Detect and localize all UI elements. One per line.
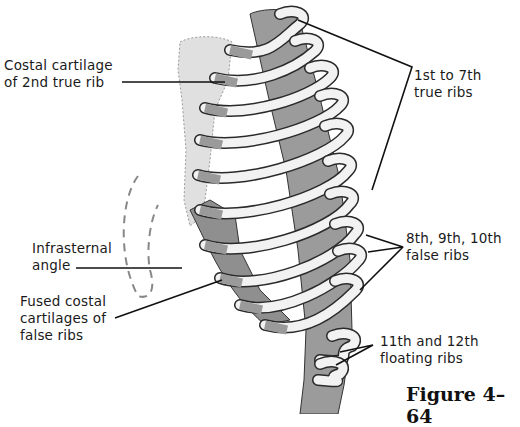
label-floating-ribs: 11th and 12thfloating ribs xyxy=(380,333,479,367)
label-line: true ribs xyxy=(414,84,482,101)
label-line: of 2nd true rib xyxy=(4,74,113,91)
label-line: cartilages of xyxy=(20,310,106,327)
costal-cartilage xyxy=(240,305,262,310)
costal-cartilage xyxy=(230,50,252,55)
costal-cartilage xyxy=(200,210,222,215)
label-line: floating ribs xyxy=(380,350,479,367)
label-line: Fused costal xyxy=(20,293,106,310)
costal-cartilage xyxy=(205,108,227,113)
label-line: 11th and 12th xyxy=(380,333,479,350)
costal-cartilage xyxy=(198,175,220,180)
label-line: 8th, 9th, 10th xyxy=(406,230,502,247)
label-line: false ribs xyxy=(20,327,106,344)
label-costal-cartilage-2nd: Costal cartilageof 2nd true rib xyxy=(4,57,113,91)
costal-cartilage xyxy=(205,245,227,250)
costal-cartilage xyxy=(200,140,222,145)
infrasternal-outline xyxy=(124,176,158,297)
sternum xyxy=(178,37,232,226)
label-line: Infrasternal xyxy=(32,240,112,257)
label-line: false ribs xyxy=(406,247,502,264)
leader-fused-costal xyxy=(115,280,222,318)
costal-cartilage xyxy=(220,278,242,283)
label-line: Costal cartilage xyxy=(4,57,113,74)
label-infrasternal-angle: Infrasternalangle xyxy=(32,240,112,274)
label-line: angle xyxy=(32,257,112,274)
label-false-ribs: 8th, 9th, 10thfalse ribs xyxy=(406,230,502,264)
figure-caption: Figure 4–64 xyxy=(406,383,520,427)
label-true-ribs: 1st to 7thtrue ribs xyxy=(414,67,482,101)
costal-cartilage xyxy=(265,325,287,330)
label-line: 1st to 7th xyxy=(414,67,482,84)
leader-lines xyxy=(76,20,412,365)
label-fused-costal-cartilages: Fused costalcartilages offalse ribs xyxy=(20,293,106,344)
leader-false-ribs-a xyxy=(366,235,403,252)
